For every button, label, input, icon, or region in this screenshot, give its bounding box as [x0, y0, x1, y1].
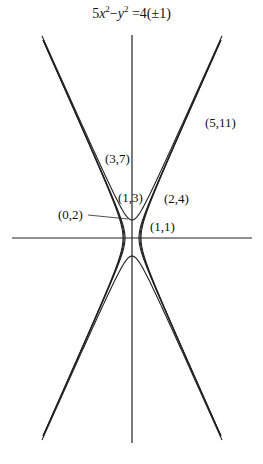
point-label: (3,7): [105, 151, 130, 166]
point-label: (0,2): [58, 207, 83, 222]
point-label: (2,4): [164, 191, 189, 206]
point-label: (1,3): [118, 190, 143, 205]
hyperbola-diagram: (0,2)(1,3)(1,1)(2,4)(3,7)(5,11): [0, 0, 263, 464]
point-label: (5,11): [205, 115, 236, 130]
point-label: (1,1): [150, 219, 175, 234]
